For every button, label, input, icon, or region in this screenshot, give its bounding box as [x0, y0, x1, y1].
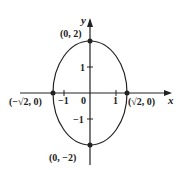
ellipse-diagram: x y −1 0 1 1 −1 (0, 2) (0, −2) (−√2, 0) … [0, 0, 185, 170]
x-tick-label-1: 1 [113, 95, 118, 106]
bottom-vertex-point [88, 143, 93, 148]
x-tick-label-neg1: −1 [58, 95, 69, 106]
top-vertex-label: (0, 2) [60, 28, 82, 40]
top-vertex-point [88, 39, 93, 44]
bottom-vertex-label: (0, −2) [49, 152, 76, 164]
x-tick-label-0: 0 [81, 95, 86, 106]
x-axis-label: x [167, 94, 174, 106]
right-vertex-label: (√2, 0) [128, 96, 155, 108]
y-tick-label-1: 1 [80, 62, 85, 73]
left-vertex-label: (−√2, 0) [9, 96, 42, 108]
y-tick-label-neg1: −1 [73, 114, 84, 125]
right-vertex-point [125, 91, 130, 96]
y-axis-label: y [79, 14, 86, 26]
left-vertex-point [51, 91, 56, 96]
y-axis-arrow-icon [87, 18, 93, 27]
